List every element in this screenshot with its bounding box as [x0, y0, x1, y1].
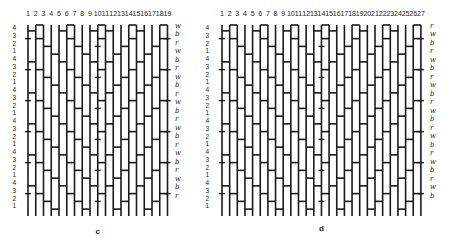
threading-grid-d	[0, 0, 455, 250]
panel-caption-d: d	[319, 224, 324, 233]
row-label: 1	[201, 140, 209, 147]
row-label: 1	[201, 78, 209, 85]
color-label: w	[430, 82, 436, 89]
row-label: 2	[201, 164, 209, 171]
column-number: 21	[371, 10, 379, 17]
row-label: 3	[201, 94, 209, 101]
column-number: 4	[243, 10, 247, 17]
color-label: w	[430, 133, 436, 140]
color-label: r	[430, 125, 433, 132]
color-label: r	[430, 74, 433, 81]
color-label: b	[430, 193, 434, 200]
color-label: b	[430, 167, 434, 174]
row-label: 3	[201, 63, 209, 70]
row-label: 3	[201, 187, 209, 194]
column-number: 14	[318, 10, 326, 17]
column-number: 23	[386, 10, 394, 17]
row-label: 2	[201, 133, 209, 140]
column-number: 18	[348, 10, 356, 17]
color-label: b	[430, 40, 434, 47]
column-number: 11	[295, 10, 302, 17]
column-number: 10	[287, 10, 295, 17]
row-label: 4	[201, 55, 209, 62]
column-number: 16	[333, 10, 341, 17]
color-label: b	[430, 142, 434, 149]
color-label: b	[430, 91, 434, 98]
color-label: w	[430, 108, 436, 115]
row-label: 1	[201, 47, 209, 54]
row-label: 3	[201, 125, 209, 132]
column-number: 15	[325, 10, 333, 17]
column-number: 22	[379, 10, 387, 17]
row-label: 4	[201, 179, 209, 186]
column-number: 13	[310, 10, 318, 17]
column-number: 9	[281, 10, 285, 17]
color-label: r	[430, 176, 433, 183]
column-number: 12	[302, 10, 310, 17]
column-number: 7	[266, 10, 270, 17]
row-label: 1	[201, 171, 209, 178]
row-label: 4	[201, 117, 209, 124]
column-number: 19	[356, 10, 364, 17]
row-label: 2	[201, 40, 209, 47]
column-number: 5	[251, 10, 255, 17]
row-label: 2	[201, 102, 209, 109]
row-label: 4	[201, 24, 209, 31]
column-number: 6	[258, 10, 262, 17]
row-label: 2	[201, 71, 209, 78]
row-label: 3	[201, 32, 209, 39]
color-label: r	[430, 150, 433, 157]
column-number: 3	[235, 10, 239, 17]
column-number: 25	[402, 10, 410, 17]
color-label: w	[430, 184, 436, 191]
column-number: 24	[394, 10, 402, 17]
column-number: 2	[228, 10, 232, 17]
color-label: r	[430, 48, 433, 55]
row-label: 2	[201, 195, 209, 202]
color-label: r	[430, 23, 433, 30]
color-label: w	[430, 57, 436, 64]
column-number: 27	[417, 10, 425, 17]
row-label: 1	[201, 202, 209, 209]
column-number: 17	[340, 10, 348, 17]
column-number: 1	[220, 10, 224, 17]
row-label: 4	[201, 148, 209, 155]
row-label: 4	[201, 86, 209, 93]
row-label: 1	[201, 109, 209, 116]
column-number: 20	[363, 10, 371, 17]
color-label: b	[430, 116, 434, 123]
color-label: w	[430, 31, 436, 38]
color-label: w	[430, 159, 436, 166]
color-label: b	[430, 65, 434, 72]
color-label: r	[430, 99, 433, 106]
column-number: 26	[409, 10, 417, 17]
column-number: 8	[274, 10, 278, 17]
row-label: 3	[201, 156, 209, 163]
